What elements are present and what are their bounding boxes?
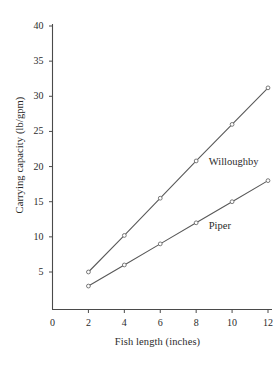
chart-figure: 510152025303540 024681012 Carrying capac…: [0, 0, 277, 365]
x-tick-label: 12: [258, 318, 277, 328]
series-label-willoughby: Willoughby: [209, 156, 259, 167]
x-tick-label: 4: [114, 318, 134, 328]
data-point-marker: [158, 242, 162, 246]
x-tick-label: 6: [150, 318, 170, 328]
data-point-marker: [122, 234, 126, 238]
x-tick-label: 2: [78, 318, 98, 328]
x-tick-label: 10: [222, 318, 242, 328]
data-point-marker: [230, 200, 234, 204]
data-point-marker: [87, 284, 91, 288]
data-point-marker: [158, 196, 162, 200]
x-axis-title: Fish length (inches): [45, 336, 270, 347]
series-line-willoughby: [88, 88, 268, 272]
data-point-marker: [122, 263, 126, 267]
series-line-piper: [88, 181, 268, 286]
x-tick-label: 8: [186, 318, 206, 328]
x-tick-label: 0: [43, 318, 63, 328]
data-point-marker: [266, 179, 270, 183]
y-axis-title: Carrying capacity (lb/gpm): [14, 5, 30, 305]
data-point-marker: [194, 159, 198, 163]
series-label-piper: Piper: [209, 220, 231, 231]
data-series-layer: [87, 86, 270, 288]
data-point-marker: [87, 270, 91, 274]
data-point-marker: [230, 123, 234, 127]
data-point-marker: [194, 221, 198, 225]
data-point-marker: [266, 86, 270, 90]
